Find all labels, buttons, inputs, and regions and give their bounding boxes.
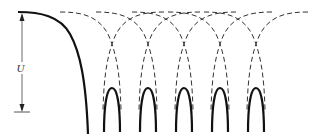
resulting-barriers <box>104 88 264 132</box>
dashed-potential-curves <box>60 12 308 110</box>
dashed-curve-right-5 <box>247 12 308 110</box>
barrier-arch-1 <box>104 88 120 132</box>
dashed-curve-right-3 <box>175 12 236 110</box>
depth-arrow-up-icon <box>20 13 25 21</box>
dashed-curve-left-4 <box>168 12 229 110</box>
dashed-curve-left-2 <box>96 12 157 110</box>
dashed-curve-left-5 <box>204 12 265 110</box>
depth-label: U <box>17 62 26 74</box>
dashed-curve-right-4 <box>211 12 272 110</box>
isolated-atom-potential-curve <box>18 12 88 134</box>
barrier-arch-2 <box>140 88 156 132</box>
depth-arrow-down-icon <box>20 104 25 112</box>
dashed-curve-right-1 <box>103 12 164 110</box>
dashed-curve-left-1 <box>60 12 121 110</box>
potential-diagram: U <box>0 0 316 136</box>
barrier-arch-5 <box>248 88 264 132</box>
barrier-arch-4 <box>212 88 228 132</box>
barrier-arch-3 <box>176 88 192 132</box>
dashed-curve-left-3 <box>132 12 193 110</box>
dashed-curve-right-2 <box>139 12 200 110</box>
